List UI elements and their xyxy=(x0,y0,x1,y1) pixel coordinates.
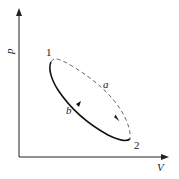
path-b-solid xyxy=(50,62,130,140)
x-axis-label: V xyxy=(157,161,165,173)
point-2-label: 2 xyxy=(134,139,140,151)
path-a-label: a xyxy=(103,78,109,90)
arrow-b-icon xyxy=(76,101,81,107)
pv-diagram: p V 1 2 a b xyxy=(0,0,179,179)
path-b-label: b xyxy=(66,104,72,116)
point-1-label: 1 xyxy=(46,46,52,58)
arrow-a-icon xyxy=(114,114,121,121)
y-axis-label: p xyxy=(3,48,15,55)
path-a-dashed xyxy=(51,59,130,139)
